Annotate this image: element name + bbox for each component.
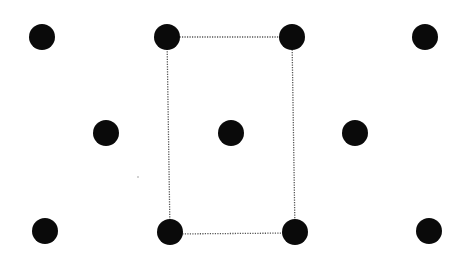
lattice-points: [29, 24, 442, 245]
lattice-svg: [0, 0, 466, 265]
lattice-point: [279, 24, 305, 50]
lattice-point: [93, 120, 119, 146]
lattice-point: [29, 24, 55, 50]
lattice-point: [154, 24, 180, 50]
lattice-point: [342, 120, 368, 146]
lattice-point: [218, 120, 244, 146]
lattice-diagram: [0, 0, 466, 265]
speck: [137, 176, 139, 178]
lattice-point: [157, 219, 183, 245]
lattice-point: [412, 24, 438, 50]
lattice-point: [32, 218, 58, 244]
lattice-point: [416, 218, 442, 244]
lattice-point: [282, 219, 308, 245]
noise-specks: [137, 176, 139, 178]
